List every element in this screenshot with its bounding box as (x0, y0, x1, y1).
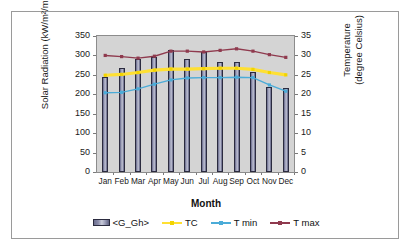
y-axis-title-right-line1: Temperature (341, 0, 353, 124)
y-tick-mark-right (295, 172, 298, 173)
data-point-marker (104, 91, 107, 94)
data-point-marker (104, 54, 107, 57)
data-point-marker (136, 57, 139, 60)
data-point-marker (235, 67, 238, 70)
legend-item-label: T min (234, 217, 258, 228)
legend-line-swatch-icon (162, 219, 182, 227)
data-point-marker (120, 73, 123, 76)
legend-item[interactable]: T max (270, 217, 319, 228)
line-t-min (105, 77, 286, 93)
data-point-marker (202, 67, 205, 70)
y-axis-title-left: Solar Radiation (kW/m²/month) (39, 0, 53, 118)
y-tick-label-left: 0 (64, 166, 90, 176)
y-tick-label-left: 150 (64, 108, 90, 118)
data-point-marker (120, 55, 123, 58)
data-point-marker (153, 69, 156, 72)
legend-item-label: <G_Gh> (113, 217, 149, 228)
legend-line-swatch-icon (211, 219, 231, 227)
data-point-marker (235, 76, 238, 79)
legend-line-swatch-icon (270, 219, 290, 227)
data-point-marker (186, 67, 189, 70)
y-axis-title-right: Temperature (degree Celsius) (341, 0, 367, 124)
legend-line-marker (219, 221, 223, 225)
y-tick-mark-right (295, 153, 298, 154)
data-point-marker (284, 90, 287, 93)
y-tick-label-right: 15 (301, 108, 327, 118)
data-point-marker (268, 83, 271, 86)
data-point-marker (169, 50, 172, 53)
data-point-marker (120, 91, 123, 94)
data-point-marker (202, 76, 205, 79)
data-point-marker (219, 76, 222, 79)
plot-area (96, 35, 295, 173)
data-point-marker (169, 67, 172, 70)
y-tick-label-right: 20 (301, 88, 327, 98)
y-tick-mark-right (295, 133, 298, 134)
y-tick-mark-right (295, 36, 298, 37)
legend-item[interactable]: TC (162, 217, 198, 228)
data-point-marker (186, 50, 189, 53)
data-point-marker (153, 55, 156, 58)
data-point-marker (268, 53, 271, 56)
y-tick-label-left: 350 (64, 30, 90, 40)
legend-line-marker (170, 221, 174, 225)
data-point-marker (104, 74, 107, 77)
y-tick-label-right: 0 (301, 166, 327, 176)
data-point-marker (235, 47, 238, 50)
y-tick-label-left: 100 (64, 127, 90, 137)
y-tick-mark-right (295, 114, 298, 115)
line-tc (105, 68, 286, 75)
data-point-marker (219, 49, 222, 52)
y-tick-label-right: 30 (301, 49, 327, 59)
data-point-marker (202, 50, 205, 53)
data-point-marker (186, 76, 189, 79)
y-tick-label-right: 10 (301, 127, 327, 137)
data-point-marker (136, 71, 139, 74)
data-point-marker (284, 56, 287, 59)
data-point-marker (284, 73, 287, 76)
y-tick-label-right: 5 (301, 147, 327, 157)
y-tick-mark-right (295, 55, 298, 56)
y-tick-mark-right (295, 94, 298, 95)
data-point-marker (251, 68, 254, 71)
y-tick-label-left: 50 (64, 147, 90, 157)
y-tick-label-left: 300 (64, 49, 90, 59)
y-tick-label-right: 35 (301, 30, 327, 40)
legend-item[interactable]: T min (211, 217, 258, 228)
y-axis-title-right-line2: (degree Celsius) (353, 0, 365, 124)
chart-figure: Solar Radiation (kW/m²/month) Temperatur… (11, 11, 399, 239)
line-series-group (97, 36, 294, 172)
y-tick-mark-right (295, 75, 298, 76)
legend-line-marker (278, 221, 282, 225)
data-point-marker (169, 78, 172, 81)
data-point-marker (136, 87, 139, 90)
y-tick-label-left: 250 (64, 69, 90, 79)
data-point-marker (219, 67, 222, 70)
y-tick-label-right: 25 (301, 69, 327, 79)
chart-legend: <G_Gh>TCT minT max (12, 217, 400, 228)
x-tick-label: Dec (272, 176, 300, 186)
y-tick-label-left: 200 (64, 88, 90, 98)
data-point-marker (153, 83, 156, 86)
data-point-marker (251, 50, 254, 53)
x-axis-title: Month (12, 198, 400, 209)
legend-bar-swatch-icon (93, 219, 110, 226)
data-point-marker (251, 76, 254, 79)
data-point-marker (268, 71, 271, 74)
legend-item-label: T max (293, 217, 319, 228)
legend-item[interactable]: <G_Gh> (93, 217, 149, 228)
line-t-max (105, 49, 286, 58)
legend-item-label: TC (185, 217, 198, 228)
